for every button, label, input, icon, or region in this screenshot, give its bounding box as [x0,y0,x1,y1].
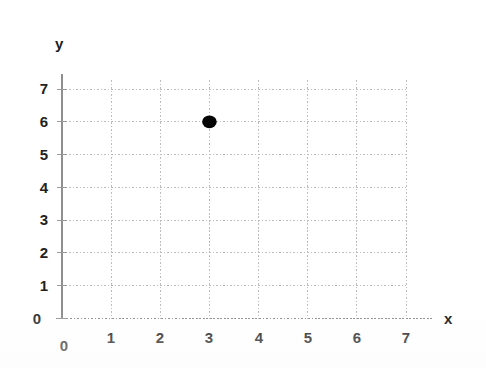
grid-lines-vertical [111,80,406,319]
x-axis-label: x [444,311,452,326]
grid-lines-horizontal [62,89,406,286]
x-tick-5: 5 [297,330,319,345]
plot-area [0,0,486,368]
x-tick-7: 7 [395,330,417,345]
x-tick-6: 6 [346,330,368,345]
x-tick-1: 1 [100,330,122,345]
x-tick-3: 3 [198,330,220,345]
x-tick-2: 2 [149,330,171,345]
y-tick-1: 1 [28,278,48,293]
y-tick-2: 2 [28,245,48,260]
x-tick-0: 0 [53,338,75,353]
data-point-group [202,115,217,128]
y-tick-0: 0 [26,311,48,326]
x-tick-4: 4 [248,330,270,345]
coordinate-grid-chart: y x 7 6 5 4 3 2 1 0 0 1 2 3 4 5 6 7 [0,0,486,368]
axis-lines [56,74,434,319]
y-tick-5: 5 [28,147,48,162]
y-tick-7: 7 [28,81,48,96]
data-point-3-6 [202,115,217,128]
y-tick-4: 4 [28,180,48,195]
y-axis-label: y [55,36,63,51]
y-tick-6: 6 [28,114,48,129]
y-tick-3: 3 [28,212,48,227]
